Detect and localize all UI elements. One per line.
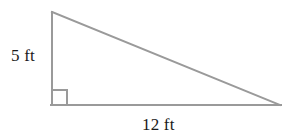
base-dimension-label: 12 ft (142, 116, 175, 133)
triangle-hypotenuse (52, 12, 280, 105)
right-angle-marker-icon (52, 90, 67, 105)
right-triangle-figure: 5 ft 12 ft (0, 0, 294, 139)
height-dimension-label: 5 ft (11, 47, 35, 64)
